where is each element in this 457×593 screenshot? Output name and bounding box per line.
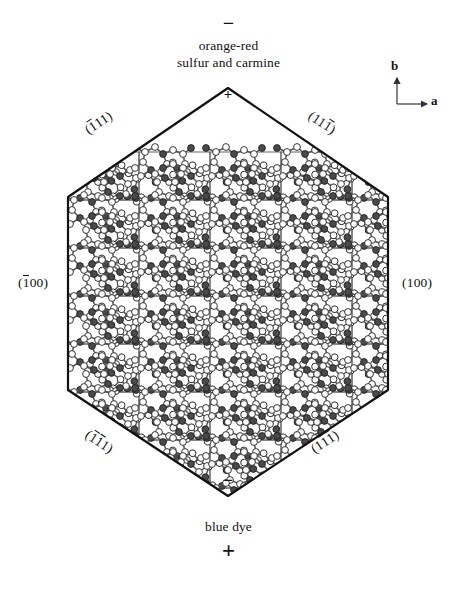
molecule [361, 449, 424, 491]
molecule [377, 447, 445, 496]
molecule [132, 480, 195, 522]
unit-cell [352, 440, 423, 488]
molecule [345, 480, 408, 522]
molecule [377, 399, 445, 448]
molecule [290, 449, 353, 491]
bottom-annotation-line-1: blue dye [0, 518, 457, 536]
molecule [306, 447, 374, 496]
unit-cell [68, 440, 139, 488]
molecule [77, 449, 140, 491]
bottom-annotation: blue dye + [0, 518, 457, 562]
molecule [345, 144, 408, 186]
crystal-figure: − orange-red sulfur and carmine b a (111… [0, 0, 457, 593]
molecule [61, 480, 124, 522]
molecule [77, 401, 140, 443]
molecule [61, 432, 124, 474]
crystal-packing-diagram: + − [0, 0, 457, 593]
molecule [361, 401, 424, 443]
molecule [274, 480, 337, 522]
molecule [345, 432, 408, 474]
molecule [148, 449, 211, 491]
molecule [93, 447, 161, 496]
polarity-plus-sign: + [0, 539, 457, 562]
vertex-mark-top: + [224, 86, 233, 102]
vertex-mark-bottom: − [223, 471, 233, 490]
